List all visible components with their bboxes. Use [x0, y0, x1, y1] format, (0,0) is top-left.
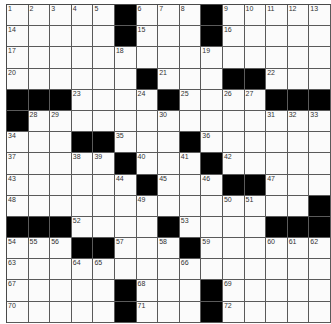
answer-cell[interactable]: [50, 26, 72, 47]
answer-cell[interactable]: 57: [115, 238, 137, 259]
answer-cell[interactable]: [180, 196, 202, 217]
answer-cell[interactable]: [115, 196, 137, 217]
answer-cell[interactable]: [50, 302, 72, 323]
answer-cell[interactable]: [309, 69, 331, 90]
answer-cell[interactable]: [266, 302, 288, 323]
answer-cell[interactable]: [50, 132, 72, 153]
answer-cell[interactable]: [245, 302, 267, 323]
answer-cell[interactable]: [158, 196, 180, 217]
answer-cell[interactable]: [266, 196, 288, 217]
answer-cell[interactable]: [158, 302, 180, 323]
answer-cell[interactable]: [180, 69, 202, 90]
answer-cell[interactable]: [266, 47, 288, 68]
answer-cell[interactable]: 12: [288, 5, 310, 26]
answer-cell[interactable]: [309, 302, 331, 323]
answer-cell[interactable]: [180, 26, 202, 47]
answer-cell[interactable]: 51: [245, 196, 267, 217]
answer-cell[interactable]: [137, 111, 159, 132]
answer-cell[interactable]: [245, 47, 267, 68]
answer-cell[interactable]: [93, 217, 115, 238]
answer-cell[interactable]: [29, 175, 51, 196]
answer-cell[interactable]: 19: [201, 47, 223, 68]
answer-cell[interactable]: 10: [245, 5, 267, 26]
answer-cell[interactable]: 37: [7, 153, 29, 174]
answer-cell[interactable]: [72, 175, 94, 196]
answer-cell[interactable]: 55: [29, 238, 51, 259]
answer-cell[interactable]: 44: [115, 175, 137, 196]
answer-cell[interactable]: [180, 111, 202, 132]
answer-cell[interactable]: 25: [180, 90, 202, 111]
answer-cell[interactable]: [29, 132, 51, 153]
answer-cell[interactable]: [93, 90, 115, 111]
answer-cell[interactable]: [288, 259, 310, 280]
answer-cell[interactable]: [245, 217, 267, 238]
answer-cell[interactable]: [115, 259, 137, 280]
answer-cell[interactable]: [266, 153, 288, 174]
answer-cell[interactable]: [29, 196, 51, 217]
answer-cell[interactable]: [223, 238, 245, 259]
answer-cell[interactable]: [180, 175, 202, 196]
answer-cell[interactable]: [72, 26, 94, 47]
answer-cell[interactable]: [180, 280, 202, 301]
answer-cell[interactable]: [93, 69, 115, 90]
answer-cell[interactable]: 15: [137, 26, 159, 47]
answer-cell[interactable]: [50, 153, 72, 174]
answer-cell[interactable]: [137, 259, 159, 280]
answer-cell[interactable]: 65: [93, 259, 115, 280]
answer-cell[interactable]: 24: [137, 90, 159, 111]
answer-cell[interactable]: [223, 132, 245, 153]
answer-cell[interactable]: [50, 259, 72, 280]
answer-cell[interactable]: [309, 175, 331, 196]
answer-cell[interactable]: 64: [72, 259, 94, 280]
answer-cell[interactable]: [158, 47, 180, 68]
answer-cell[interactable]: [29, 259, 51, 280]
answer-cell[interactable]: 26: [223, 90, 245, 111]
answer-cell[interactable]: [29, 69, 51, 90]
answer-cell[interactable]: [201, 111, 223, 132]
answer-cell[interactable]: [50, 196, 72, 217]
answer-cell[interactable]: 70: [7, 302, 29, 323]
answer-cell[interactable]: 68: [137, 280, 159, 301]
answer-cell[interactable]: 52: [72, 217, 94, 238]
answer-cell[interactable]: 13: [309, 5, 331, 26]
answer-cell[interactable]: 54: [7, 238, 29, 259]
answer-cell[interactable]: [288, 26, 310, 47]
answer-cell[interactable]: 40: [137, 153, 159, 174]
answer-cell[interactable]: [201, 217, 223, 238]
answer-cell[interactable]: [93, 26, 115, 47]
answer-cell[interactable]: 5: [93, 5, 115, 26]
answer-cell[interactable]: 49: [137, 196, 159, 217]
answer-cell[interactable]: [115, 217, 137, 238]
answer-cell[interactable]: [245, 238, 267, 259]
answer-cell[interactable]: 28: [29, 111, 51, 132]
answer-cell[interactable]: [137, 47, 159, 68]
answer-cell[interactable]: 45: [158, 175, 180, 196]
answer-cell[interactable]: [180, 302, 202, 323]
answer-cell[interactable]: [223, 47, 245, 68]
answer-cell[interactable]: 3: [50, 5, 72, 26]
answer-cell[interactable]: 35: [115, 132, 137, 153]
answer-cell[interactable]: [50, 69, 72, 90]
answer-cell[interactable]: [245, 280, 267, 301]
answer-cell[interactable]: 9: [223, 5, 245, 26]
answer-cell[interactable]: [266, 26, 288, 47]
answer-cell[interactable]: 46: [201, 175, 223, 196]
answer-cell[interactable]: [245, 153, 267, 174]
answer-cell[interactable]: 17: [7, 47, 29, 68]
answer-cell[interactable]: [245, 132, 267, 153]
answer-cell[interactable]: [29, 302, 51, 323]
answer-cell[interactable]: 32: [288, 111, 310, 132]
answer-cell[interactable]: 2: [29, 5, 51, 26]
answer-cell[interactable]: 8: [180, 5, 202, 26]
answer-cell[interactable]: 53: [180, 217, 202, 238]
answer-cell[interactable]: [137, 217, 159, 238]
answer-cell[interactable]: [72, 69, 94, 90]
answer-cell[interactable]: 58: [158, 238, 180, 259]
answer-cell[interactable]: 62: [309, 238, 331, 259]
answer-cell[interactable]: [201, 90, 223, 111]
answer-cell[interactable]: 21: [158, 69, 180, 90]
answer-cell[interactable]: [288, 69, 310, 90]
answer-cell[interactable]: 16: [223, 26, 245, 47]
answer-cell[interactable]: [93, 196, 115, 217]
answer-cell[interactable]: [288, 196, 310, 217]
